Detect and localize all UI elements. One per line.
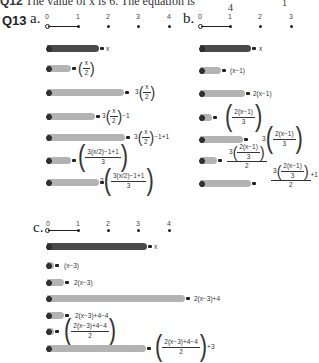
bar-label: x: [154, 244, 157, 251]
bar-label: (2(x−3)+4−42)+3: [155, 336, 215, 358]
bar: [47, 345, 146, 352]
point: [168, 229, 171, 232]
bar: [200, 90, 245, 97]
unit-segment: [48, 230, 78, 231]
bar-label: 3(2(x−1)3)2: [227, 144, 267, 170]
tick-label: 2: [258, 13, 262, 20]
unit-segment: [48, 26, 78, 27]
bar: [47, 134, 125, 141]
bar-label: x: [259, 46, 262, 53]
bar-label: 2(x−1): [253, 91, 272, 98]
tick-label: 4: [167, 220, 171, 227]
bar: [47, 328, 54, 335]
tick-label: 3: [136, 220, 140, 227]
bar: [47, 65, 71, 72]
bar: [47, 262, 54, 269]
q12-frac-den: 4: [228, 2, 233, 13]
bar-label: (2(x−3)+4−42): [64, 320, 116, 342]
point: [107, 25, 110, 28]
tick-label: 4: [167, 13, 171, 20]
bar: [200, 114, 212, 121]
tick-label: 1: [228, 13, 232, 20]
point: [137, 229, 140, 232]
bar-x: [47, 243, 147, 250]
bar-label: 2(x−3)+4: [194, 296, 220, 303]
bar: [200, 67, 221, 74]
point: [229, 25, 232, 28]
tick-label: 2: [106, 220, 110, 227]
bar: [47, 89, 124, 96]
bar-label: 3(x2): [135, 84, 155, 100]
bar-label: (x2): [78, 60, 95, 76]
point: [259, 25, 262, 28]
bar-label: 3(x2)−1+1: [134, 129, 169, 145]
bar: [47, 279, 64, 286]
tick-label: 0: [198, 13, 202, 20]
bar: [200, 157, 217, 164]
tick-label: 0: [46, 220, 50, 227]
point: [168, 25, 171, 28]
bar: [47, 157, 71, 164]
bar-label: 3(2(x−1)3): [262, 128, 303, 150]
q13-label: Q13: [2, 13, 27, 28]
tick-label: 3: [289, 13, 293, 20]
bar: [47, 113, 95, 120]
bar: [47, 295, 185, 302]
tick-label: 0: [45, 13, 49, 20]
point: [107, 229, 110, 232]
bar-x: [200, 45, 251, 52]
bar-label: 2(x−3): [74, 280, 93, 287]
bar: [47, 312, 64, 319]
q12-text: The value of x is 6. The equation is: [25, 0, 194, 8]
bar-label: 2(3(x/2)−1+13): [100, 170, 154, 192]
bar-label: x: [106, 46, 109, 53]
point: [137, 25, 140, 28]
tick-label: 1: [76, 13, 80, 20]
q12-label: Q12: [0, 0, 23, 8]
bar-label: (x−3): [64, 263, 79, 270]
tick-label: 3: [136, 13, 140, 20]
bar-label: (x−1): [230, 68, 245, 75]
q12-trail: 1: [282, 0, 287, 8]
point: [77, 229, 80, 232]
q12-line: Q12 The value of x is 6. The equation is: [0, 0, 195, 9]
bar-label: 2(x−3)+4−4: [75, 313, 108, 320]
bar: [200, 180, 251, 187]
tick-label: 2: [106, 13, 110, 20]
point: [77, 25, 80, 28]
tick-label: 1: [76, 220, 80, 227]
bar: [47, 179, 99, 186]
bar-label: 3(2(x−1)3)2+1: [271, 163, 318, 189]
part-c-label: c.: [33, 219, 43, 236]
bar-label: (2(x−1)3): [225, 106, 262, 128]
unit-segment: [201, 26, 230, 27]
point: [290, 25, 293, 28]
part-b-label: b.: [183, 10, 194, 27]
part-a-label: a.: [30, 10, 40, 27]
bar-label: 3(x2)−1: [102, 108, 130, 124]
bar-x: [47, 45, 99, 52]
